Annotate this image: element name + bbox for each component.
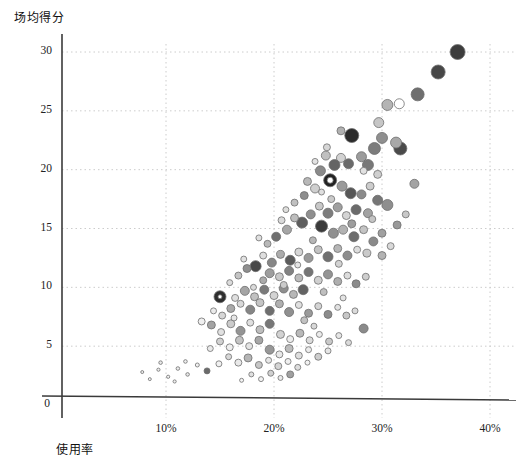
data-point [305, 360, 310, 365]
data-points [141, 45, 465, 384]
data-point [328, 196, 335, 203]
data-point [265, 345, 274, 354]
y-tick-label: 10 [18, 279, 52, 291]
data-point [368, 142, 380, 154]
y-tick-label: 15 [18, 221, 52, 233]
data-point [186, 373, 190, 377]
data-point [219, 312, 226, 319]
data-point [346, 340, 352, 346]
data-point [235, 336, 243, 344]
data-point [324, 310, 332, 318]
data-point [285, 255, 295, 265]
data-point [394, 99, 404, 109]
data-point [272, 232, 281, 241]
data-point [382, 199, 393, 210]
data-point [278, 217, 285, 224]
data-point [334, 245, 342, 253]
data-point [327, 177, 333, 183]
data-point [256, 235, 262, 241]
data-point [431, 65, 445, 79]
data-point [393, 221, 401, 229]
y-tick-label: 5 [18, 338, 52, 350]
axis-lines [42, 34, 516, 418]
data-point [231, 315, 237, 321]
data-point [323, 252, 333, 262]
data-point [141, 371, 144, 374]
data-point [246, 305, 255, 314]
data-point [377, 132, 388, 143]
data-point [378, 252, 386, 260]
data-point [259, 377, 264, 382]
data-point [247, 319, 254, 326]
data-point [265, 306, 274, 315]
data-point [320, 289, 327, 296]
data-point [216, 361, 222, 367]
data-point [204, 368, 210, 374]
data-point [329, 159, 340, 170]
data-point [227, 280, 233, 286]
data-point [343, 251, 352, 260]
data-point [340, 295, 346, 301]
data-point [264, 240, 271, 247]
data-point [285, 345, 293, 353]
data-point [298, 285, 308, 295]
data-point [312, 158, 318, 164]
data-point [349, 232, 359, 242]
data-point [362, 273, 369, 280]
data-point [311, 323, 317, 329]
data-point [360, 226, 368, 234]
data-point [226, 344, 233, 351]
data-point [328, 228, 338, 238]
data-point [337, 181, 347, 191]
data-point [321, 151, 330, 160]
data-point [260, 285, 269, 294]
data-point [333, 203, 342, 212]
data-point [309, 237, 316, 244]
data-point [342, 212, 350, 220]
data-point [291, 199, 298, 206]
data-point [306, 337, 313, 344]
data-point [345, 188, 356, 199]
data-point [232, 294, 239, 301]
data-point [235, 359, 242, 366]
data-point [319, 189, 325, 195]
data-point [374, 118, 384, 128]
data-point [295, 352, 302, 359]
data-point [410, 179, 419, 188]
data-point [265, 269, 274, 278]
data-point [306, 210, 315, 219]
data-point [315, 303, 322, 310]
data-point [314, 276, 322, 284]
data-point [287, 371, 294, 378]
data-point [285, 266, 294, 275]
data-point [260, 277, 267, 284]
x-axis-line [42, 396, 516, 400]
data-point [387, 243, 394, 250]
data-point [316, 220, 328, 232]
data-point [360, 167, 367, 174]
data-point [295, 262, 301, 268]
data-point [243, 265, 251, 273]
data-point [295, 364, 301, 370]
data-point [382, 99, 393, 110]
data-point [285, 308, 294, 317]
data-point [352, 308, 358, 314]
data-point [240, 378, 244, 382]
data-point [159, 361, 163, 365]
data-point [374, 170, 382, 178]
data-point [295, 274, 303, 282]
data-point [268, 370, 274, 376]
data-point [305, 309, 313, 317]
data-point [249, 372, 254, 377]
data-point [275, 300, 283, 308]
data-point [315, 166, 325, 176]
data-point [339, 225, 348, 234]
y-tick-label: 30 [18, 44, 52, 56]
data-point [357, 190, 366, 199]
data-point [391, 137, 402, 148]
data-point [240, 286, 249, 295]
data-point [348, 220, 356, 228]
data-point [266, 357, 272, 363]
data-point [218, 295, 222, 299]
data-point [306, 347, 312, 353]
